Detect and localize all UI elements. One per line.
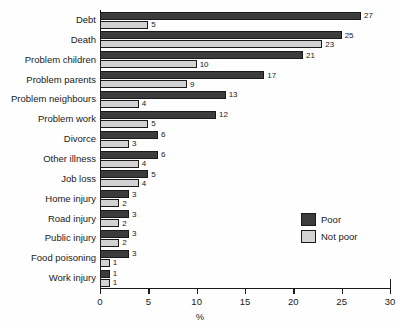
bar-value-label: 21 [306,52,315,60]
bar-poor [100,111,216,119]
bar-value-label: 3 [132,230,136,238]
bar-not-poor [100,120,148,128]
legend-item-not-poor: Not poor [301,230,357,243]
bar-value-label: 17 [267,72,276,80]
bar-group: 54 [100,169,390,189]
bar-value-label: 2 [122,239,126,247]
bar-poor [100,131,158,139]
bar-group: 63 [100,129,390,149]
bar-poor [100,170,148,178]
bar-poor [100,12,361,20]
bar-group: 31 [100,248,390,268]
bar-poor [100,270,110,278]
bar-not-poor [100,279,110,287]
category-label: Divorce [0,134,96,144]
x-axis-tick [148,289,149,294]
bar-value-label: 9 [190,81,194,89]
x-axis-tick-label: 25 [336,296,347,307]
legend-label-not-poor: Not poor [321,231,357,242]
bar-group: 32 [100,189,390,209]
bar-value-label: 5 [151,120,155,128]
bar-value-label: 3 [132,191,136,199]
x-axis-tick [342,289,343,294]
bar-chart: DebtDeathProblem childrenProblem parents… [0,0,400,328]
category-label: Debt [0,15,96,25]
bar-not-poor [100,40,322,48]
bar-value-label: 2 [122,220,126,228]
legend-swatch-not-poor-icon [301,230,316,243]
bar-not-poor [100,259,110,267]
bar-value-label: 1 [113,259,117,267]
bar-group: 11 [100,268,390,288]
x-axis-tick-label: 30 [385,296,396,307]
bar-poor [100,151,158,159]
bar-poor [100,31,342,39]
bar-poor [100,190,129,198]
bar-not-poor [100,60,197,68]
bar-value-label: 13 [229,91,238,99]
bar-value-label: 4 [142,180,146,188]
bar-value-label: 27 [364,12,373,20]
x-axis-tick [293,289,294,294]
x-axis-tick-label: 5 [146,296,151,307]
bar-value-label: 2 [122,200,126,208]
category-label: Other illness [0,154,96,164]
x-axis-tick-label: 15 [240,296,251,307]
bar-poor [100,250,129,258]
bar-poor [100,51,303,59]
bar-value-label: 6 [161,131,165,139]
category-label: Road injury [0,214,96,224]
bar-group: 134 [100,89,390,109]
category-label: Problem work [0,114,96,124]
bar-poor [100,71,264,79]
x-axis-tick [197,289,198,294]
bar-poor [100,91,226,99]
bar-poor [100,210,129,218]
bar-value-label: 5 [151,21,155,29]
bar-not-poor [100,100,139,108]
bar-poor [100,230,129,238]
bar-value-label: 4 [142,100,146,108]
bar-not-poor [100,140,129,148]
category-label: Home injury [0,194,96,204]
bar-not-poor [100,80,187,88]
x-axis-tick [390,289,391,294]
bar-value-label: 12 [219,111,228,119]
bar-value-label: 6 [161,151,165,159]
bar-group: 2523 [100,30,390,50]
bar-group: 125 [100,109,390,129]
bar-value-label: 23 [325,41,334,49]
legend-swatch-poor-icon [301,213,316,226]
x-axis-title: % [0,311,400,322]
chart-legend: Poor Not poor [301,213,357,247]
bar-group: 64 [100,149,390,169]
bar-value-label: 1 [113,270,117,278]
x-axis-tick-label: 0 [97,296,102,307]
x-axis-tick [245,289,246,294]
bar-value-label: 3 [132,250,136,258]
bar-value-label: 3 [132,211,136,219]
bar-value-label: 3 [132,140,136,148]
bar-value-label: 4 [142,160,146,168]
x-axis-tick [100,289,101,294]
category-label: Job loss [0,174,96,184]
category-label: Death [0,35,96,45]
category-label: Public injury [0,233,96,243]
legend-item-poor: Poor [301,213,357,226]
legend-label-poor: Poor [321,214,341,225]
bar-value-label: 1 [113,279,117,287]
bar-not-poor [100,199,119,207]
category-label: Problem parents [0,75,96,85]
category-label: Problem children [0,55,96,65]
x-axis-right-cap [390,279,391,289]
category-label: Food poisoning [0,253,96,263]
category-axis-labels: DebtDeathProblem childrenProblem parents… [0,10,96,288]
bar-value-label: 5 [151,171,155,179]
bar-not-poor [100,219,119,227]
bar-not-poor [100,239,119,247]
x-axis-tick-label: 10 [191,296,202,307]
bar-group: 275 [100,10,390,30]
bar-not-poor [100,160,139,168]
category-label: Work injury [0,273,96,283]
bar-value-label: 25 [345,32,354,40]
